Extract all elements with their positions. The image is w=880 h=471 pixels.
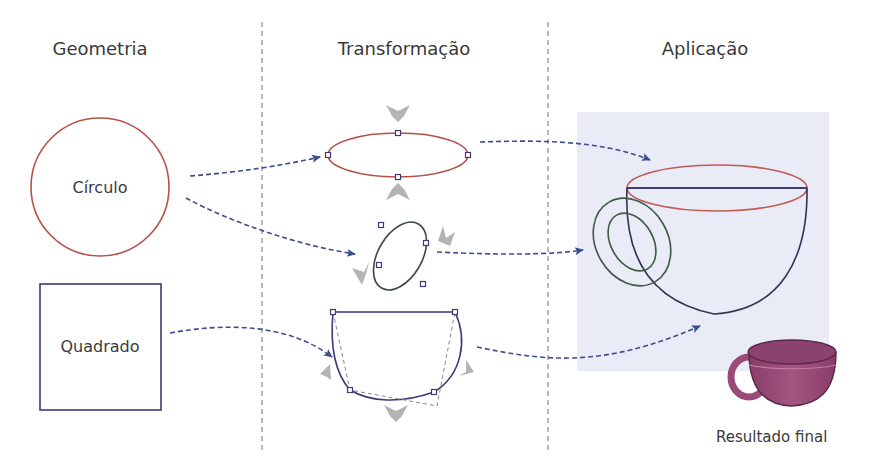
gray-arrow-icon — [320, 364, 331, 380]
diagram-graphics — [0, 0, 880, 471]
flat-ellipse-transform — [326, 105, 471, 200]
gray-arrow-icon — [459, 360, 474, 376]
tilted-ellipse-transform — [352, 213, 455, 299]
arrow-circle-to-tilted-ellipse — [186, 198, 355, 254]
column-title-application: Aplicação — [662, 38, 749, 59]
gray-arrow-down-icon — [386, 105, 410, 122]
final-result-label: Resultado final — [716, 428, 827, 446]
diagram-canvas: Geometria Transformação Aplicação Círcul… — [0, 0, 880, 471]
square-label: Quadrado — [60, 337, 139, 356]
gray-arrow-icon — [352, 262, 369, 285]
arrow-tilted-ellipse-to-handle — [437, 250, 583, 254]
circle-label: Círculo — [72, 178, 127, 197]
column-title-transformation: Transformação — [338, 38, 471, 59]
gray-arrow-down-icon — [384, 405, 408, 422]
gray-arrow-up-icon — [386, 183, 410, 200]
column-title-geometry: Geometria — [52, 38, 147, 59]
gray-arrow-icon — [438, 226, 455, 246]
arrow-square-to-bowl — [170, 327, 332, 357]
bowl-transform — [320, 310, 474, 423]
application-canvas — [577, 112, 829, 371]
arrow-circle-to-flat-ellipse — [190, 157, 320, 176]
